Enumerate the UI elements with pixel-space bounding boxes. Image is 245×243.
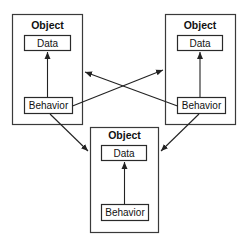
- object-bottom-data-label: Data: [113, 148, 135, 159]
- object-top-right-behavior-label: Behavior: [182, 100, 222, 111]
- object-bottom-title: Object: [108, 129, 141, 141]
- object-bottom-behavior-label: Behavior: [105, 207, 145, 218]
- object-interaction-diagram: Object Data Behavior Object Data Behavio…: [0, 0, 245, 243]
- object-top-right-data-label: Data: [189, 38, 211, 49]
- arrow-top-right-behavior-to-top-left-object: [85, 72, 178, 106]
- arrow-top-left-behavior-to-top-right-object: [73, 70, 164, 106]
- object-top-left: Object Data Behavior: [13, 15, 83, 125]
- object-top-left-behavior-label: Behavior: [29, 100, 69, 111]
- object-top-left-title: Object: [31, 19, 64, 31]
- object-top-right: Object Data Behavior: [166, 15, 236, 125]
- object-top-left-data-label: Data: [37, 38, 59, 49]
- object-bottom: Object Data Behavior: [91, 128, 159, 233]
- object-top-right-title: Object: [184, 19, 217, 31]
